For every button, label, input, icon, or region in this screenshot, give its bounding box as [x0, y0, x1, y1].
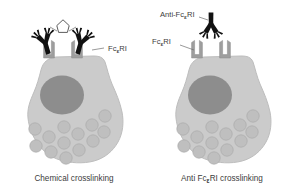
cytoplasmic-granule-icon	[87, 135, 99, 147]
right-panel: Anti-FcεRI FcεRI Anti FcεRI crosslinking	[152, 10, 271, 184]
cell-nucleus-icon	[40, 76, 84, 115]
cytoplasmic-granule-icon	[177, 123, 189, 135]
antibody-leader-line-right	[199, 17, 208, 20]
cytoplasmic-granule-icon	[193, 146, 205, 158]
cytoplasmic-granule-icon	[247, 110, 259, 122]
cytoplasmic-granule-icon	[58, 121, 70, 133]
cytoplasmic-granule-icon	[30, 140, 42, 152]
cytoplasmic-granule-icon	[58, 137, 70, 149]
cytoplasmic-granule-icon	[72, 128, 84, 140]
cytoplasmic-granule-icon	[235, 135, 247, 147]
cytoplasmic-granule-icon	[60, 152, 72, 164]
cytoplasmic-granule-icon	[208, 152, 220, 164]
cytoplasmic-granule-icon	[220, 128, 232, 140]
cytoplasmic-granule-icon	[191, 131, 203, 143]
cytoplasmic-granule-icon	[206, 137, 218, 149]
receptor-label-right: FcεRI	[152, 37, 171, 47]
receptor-leader-line-left	[92, 48, 104, 50]
figure-canvas: FcεRI Chemical crosslinking	[0, 0, 296, 190]
mast-cell-crosslinking-figure: FcεRI Chemical crosslinking	[0, 0, 296, 190]
cytoplasmic-granule-icon	[206, 121, 218, 133]
antibody-label-right: Anti-FcεRI	[160, 10, 195, 20]
cytoplasmic-granule-icon	[45, 146, 57, 158]
cytoplasmic-granule-icon	[86, 119, 98, 131]
receptor-label-left: FcεRI	[108, 44, 127, 54]
cytoplasmic-granule-icon	[98, 126, 110, 138]
cytoplasmic-granule-icon	[43, 131, 55, 143]
cytoplasmic-granule-icon	[221, 144, 233, 156]
antibody-y-shape-icon	[198, 13, 224, 40]
cytoplasmic-granule-icon	[178, 140, 190, 152]
fc-epsilon-ri-receptor-icon	[220, 40, 231, 58]
left-panel-caption: Chemical crosslinking	[34, 174, 114, 183]
chemical-crosslinker-icon	[57, 20, 69, 33]
right-panel-caption: Anti FcεRI crosslinking	[181, 174, 263, 184]
cytoplasmic-granule-icon	[246, 126, 258, 138]
cell-nucleus-icon	[188, 76, 232, 115]
left-panel: FcεRI Chemical crosslinking	[28, 20, 127, 183]
cytoplasmic-granule-icon	[73, 144, 85, 156]
fc-epsilon-ri-receptor-icon	[192, 40, 203, 58]
cytoplasmic-granule-icon	[29, 123, 41, 135]
cytoplasmic-granule-icon	[99, 110, 111, 122]
cytoplasmic-granule-icon	[234, 119, 246, 131]
